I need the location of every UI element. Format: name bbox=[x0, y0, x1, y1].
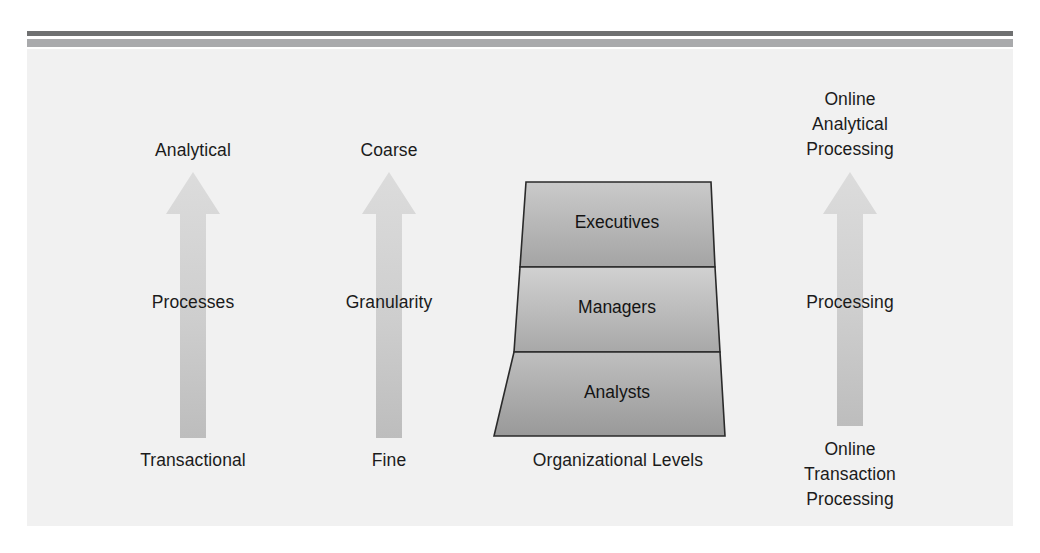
organizational-levels-pyramid: Executives Managers Analysts bbox=[486, 174, 748, 446]
figure-root: Analytical Processes Transactional Coars… bbox=[0, 0, 1040, 553]
pyramid-band-managers bbox=[514, 267, 720, 352]
processing-bottom-label: Online Transaction Processing bbox=[760, 437, 940, 512]
processes-bottom-label: Transactional bbox=[93, 448, 293, 473]
header-rule-dark bbox=[27, 31, 1013, 36]
granularity-middle-label: Granularity bbox=[299, 290, 479, 315]
granularity-bottom-label: Fine bbox=[299, 448, 479, 473]
granularity-top-label: Coarse bbox=[299, 138, 479, 163]
processing-middle-label: Processing bbox=[760, 290, 940, 315]
processes-middle-label: Processes bbox=[93, 290, 293, 315]
pyramid-caption: Organizational Levels bbox=[487, 448, 749, 473]
header-rule-light bbox=[27, 39, 1013, 47]
pyramid-band-executives bbox=[520, 182, 715, 267]
pyramid-band-analysts bbox=[494, 352, 725, 436]
processing-top-label: Online Analytical Processing bbox=[760, 87, 940, 162]
processes-top-label: Analytical bbox=[93, 138, 293, 163]
